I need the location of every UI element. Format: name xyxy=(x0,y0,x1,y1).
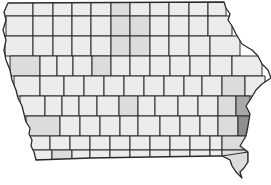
county-r3-c7 xyxy=(150,56,170,76)
county-r1-c1 xyxy=(33,16,53,36)
county-r7-c5 xyxy=(130,136,150,150)
county-r6-c4 xyxy=(120,116,138,136)
county-r3-c6 xyxy=(130,56,150,76)
county-r7-c4 xyxy=(110,136,130,150)
county-r1-c2 xyxy=(53,16,72,36)
county-r3-c9 xyxy=(190,56,210,76)
county-r6-c3 xyxy=(100,116,120,136)
county-r8-c6 xyxy=(150,150,170,160)
county-r3-c10 xyxy=(210,56,232,76)
county-r6-c1 xyxy=(60,116,80,136)
county-r7-c7 xyxy=(170,136,190,150)
county-r4-c3 xyxy=(84,76,104,96)
county-r1-c8 xyxy=(169,16,189,36)
county-r5-c4 xyxy=(97,96,119,116)
county-r3-c8 xyxy=(170,56,190,76)
county-r2-c10 xyxy=(210,36,240,56)
county-r2-c0 xyxy=(5,36,33,56)
county-r5-c10 xyxy=(218,96,236,116)
county-r6-c7 xyxy=(180,116,200,136)
county-r1-c0 xyxy=(6,16,33,36)
county-r2-c7 xyxy=(150,36,169,56)
county-r7-c6 xyxy=(150,136,170,150)
county-r0-c6 xyxy=(130,2,150,16)
county-r3-c11 xyxy=(232,56,262,76)
county-r4-c1 xyxy=(40,76,64,96)
county-r5-c7 xyxy=(155,96,178,116)
iowa-county-map xyxy=(0,0,271,185)
county-r2-c2 xyxy=(53,36,72,56)
county-r5-c6 xyxy=(138,96,155,116)
county-r0-c9 xyxy=(189,2,208,16)
county-r0-c7 xyxy=(150,2,169,16)
county-r0-c4 xyxy=(91,2,111,16)
county-r1-c6 xyxy=(130,16,150,36)
county-r8-c5 xyxy=(130,150,150,160)
county-r7-c2 xyxy=(70,136,90,150)
county-r3-c5 xyxy=(111,56,130,76)
county-r2-c4 xyxy=(91,36,111,56)
county-r2-c1 xyxy=(33,36,53,56)
county-r6-c6 xyxy=(160,116,180,136)
county-r0-c2 xyxy=(53,2,72,16)
county-r3-c3 xyxy=(73,56,92,76)
county-r1-c7 xyxy=(150,16,169,36)
county-r0-c10 xyxy=(208,2,226,16)
county-r0-c0 xyxy=(4,2,33,16)
county-lee xyxy=(222,152,248,178)
county-r4-c5 xyxy=(124,76,144,96)
county-r5-c9 xyxy=(198,96,218,116)
counties xyxy=(4,2,265,178)
county-r6-c9 xyxy=(218,116,238,136)
county-r7-c8 xyxy=(190,136,210,150)
county-r2-c3 xyxy=(72,36,91,56)
county-r0-c5 xyxy=(111,2,130,16)
county-r7-c0 xyxy=(30,136,50,150)
county-r6-c8 xyxy=(200,116,218,136)
county-r8-c9 xyxy=(210,150,222,160)
county-r5-c1 xyxy=(45,96,62,116)
county-r1-c9 xyxy=(189,16,208,36)
county-r3-c0 xyxy=(10,56,40,76)
county-r4-c9 xyxy=(202,76,222,96)
county-r0-c1 xyxy=(33,2,53,16)
county-r6-c2 xyxy=(80,116,100,136)
county-r3-c4 xyxy=(92,56,111,76)
county-r5-c5 xyxy=(119,96,138,116)
county-r7-c9 xyxy=(210,136,222,150)
county-r3-c1 xyxy=(40,56,57,76)
county-r2-c9 xyxy=(189,36,210,56)
county-r3-c2 xyxy=(57,56,73,76)
county-r5-c8 xyxy=(178,96,198,116)
county-r7-c1 xyxy=(50,136,70,150)
county-r5-c3 xyxy=(79,96,97,116)
county-r8-c7 xyxy=(170,150,190,160)
county-r4-c10 xyxy=(222,76,245,96)
county-r4-c6 xyxy=(144,76,164,96)
county-r6-c0 xyxy=(26,116,60,136)
county-r1-c3 xyxy=(72,16,91,36)
county-r4-c0 xyxy=(14,76,40,96)
county-r5-c11 xyxy=(236,96,250,116)
county-r2-c5 xyxy=(111,36,130,56)
county-r8-c4 xyxy=(110,150,130,160)
county-r2-c6 xyxy=(130,36,150,56)
county-r0-c8 xyxy=(169,2,189,16)
county-r8-c8 xyxy=(190,150,210,160)
county-r5-c2 xyxy=(62,96,79,116)
county-r4-c11 xyxy=(245,76,265,96)
county-r1-c5 xyxy=(111,16,130,36)
county-r1-c4 xyxy=(91,16,111,36)
county-r4-c2 xyxy=(64,76,84,96)
county-r0-c3 xyxy=(72,2,91,16)
county-r4-c8 xyxy=(184,76,202,96)
county-r2-c8 xyxy=(169,36,189,56)
county-r4-c7 xyxy=(164,76,184,96)
county-r4-c4 xyxy=(104,76,124,96)
county-r6-c5 xyxy=(138,116,160,136)
county-r7-c3 xyxy=(90,136,110,150)
